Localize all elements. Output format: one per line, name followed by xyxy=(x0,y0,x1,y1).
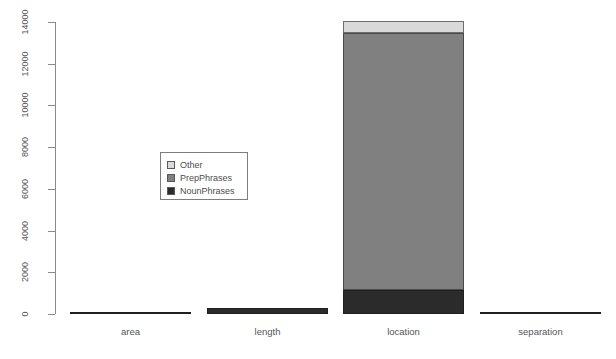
x-axis-label-length: length xyxy=(207,326,328,337)
y-axis-tick-label: 0 xyxy=(20,293,30,335)
legend-rows: OtherPrepPhrasesNounPhrases xyxy=(167,159,247,197)
bar-area xyxy=(70,312,191,314)
y-axis-tick xyxy=(48,22,55,23)
y-axis-tick-label: 12000 xyxy=(20,43,30,85)
stacked-bar-chart: 02000400060008000100001200014000 arealen… xyxy=(0,0,616,359)
legend-label: NounPhrases xyxy=(180,187,235,196)
y-axis-tick xyxy=(48,147,55,148)
y-axis-tick-label: 8000 xyxy=(20,126,30,168)
x-axis-label-separation: separation xyxy=(480,326,601,337)
legend-swatch-icon xyxy=(167,174,175,182)
plot-area: 02000400060008000100001200014000 arealen… xyxy=(0,0,616,359)
x-axis-label-location: location xyxy=(343,326,464,337)
y-axis-tick xyxy=(48,105,55,106)
legend-item-prepphrases: PrepPhrases xyxy=(167,172,247,184)
y-axis-line xyxy=(55,22,56,314)
y-axis-tick-label-wrap: 0 xyxy=(2,308,46,320)
y-axis-tick-label-wrap: 6000 xyxy=(2,183,46,195)
y-axis-tick xyxy=(48,189,55,190)
y-axis-tick-label: 10000 xyxy=(20,84,30,126)
y-axis-tick-label-wrap: 12000 xyxy=(2,58,46,70)
y-axis-tick-label-wrap: 10000 xyxy=(2,99,46,111)
bar-segment-location-other xyxy=(343,21,464,34)
bar-segment-location-prepphrases xyxy=(343,33,464,290)
legend-swatch-icon xyxy=(167,187,175,195)
legend-item-nounphrases: NounPhrases xyxy=(167,185,247,197)
y-axis-tick xyxy=(48,231,55,232)
bar-location xyxy=(343,21,464,314)
bar-separation xyxy=(480,312,601,314)
bar-segment-area-nounphrases xyxy=(70,312,191,314)
legend-item-other: Other xyxy=(167,159,247,171)
legend-label: Other xyxy=(180,161,203,170)
y-axis-tick-label: 14000 xyxy=(20,1,30,43)
y-axis-tick-label-wrap: 14000 xyxy=(2,16,46,28)
legend-label: PrepPhrases xyxy=(180,174,232,183)
y-axis-tick xyxy=(48,272,55,273)
y-axis-tick-label-wrap: 2000 xyxy=(2,266,46,278)
legend-swatch-icon xyxy=(167,161,175,169)
y-axis-tick-label: 4000 xyxy=(20,210,30,252)
bar-segment-location-nounphrases xyxy=(343,290,464,314)
legend: OtherPrepPhrasesNounPhrases xyxy=(160,152,248,200)
y-axis-tick xyxy=(48,64,55,65)
y-axis-tick xyxy=(48,314,55,315)
y-axis-tick-label: 2000 xyxy=(20,251,30,293)
bar-segment-separation-nounphrases xyxy=(480,312,601,314)
x-axis-label-area: area xyxy=(70,326,191,337)
y-axis-tick-label-wrap: 4000 xyxy=(2,225,46,237)
bar-length xyxy=(207,308,328,314)
bar-segment-length-nounphrases xyxy=(207,308,328,314)
y-axis-tick-label: 6000 xyxy=(20,168,30,210)
y-axis-tick-label-wrap: 8000 xyxy=(2,141,46,153)
